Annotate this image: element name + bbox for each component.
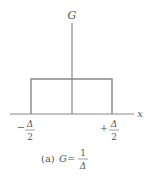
caption-equals: = bbox=[67, 153, 75, 164]
rectangular-pulse-diagram: G x − Δ 2 + Δ 2 (a) G = 1 Δ bbox=[0, 0, 152, 178]
caption: (a) G = 1 Δ bbox=[41, 148, 88, 171]
left-tick-sign: − bbox=[17, 122, 25, 133]
caption-prefix: (a) bbox=[41, 153, 55, 164]
left-tick-label: − Δ 2 bbox=[17, 119, 35, 142]
right-tick-sign: + bbox=[100, 122, 108, 133]
y-axis-label: G bbox=[68, 9, 77, 22]
caption-numerator: 1 bbox=[80, 148, 86, 158]
x-axis-label: x bbox=[137, 108, 143, 119]
right-tick-numerator: Δ bbox=[110, 119, 118, 129]
left-tick-numerator: Δ bbox=[26, 119, 34, 129]
caption-denominator: Δ bbox=[79, 161, 87, 171]
right-tick-denominator: 2 bbox=[111, 132, 117, 142]
right-tick-label: + Δ 2 bbox=[100, 119, 119, 142]
left-tick-denominator: 2 bbox=[27, 132, 33, 142]
caption-variable: G bbox=[59, 153, 67, 164]
